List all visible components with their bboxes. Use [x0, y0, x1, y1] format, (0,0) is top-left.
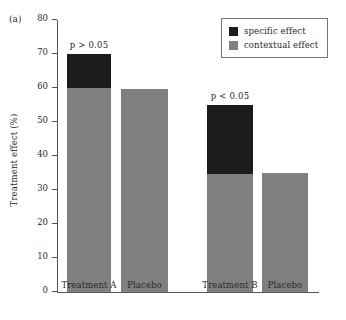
panel-label: (a) — [9, 14, 22, 24]
bar-segment-specific-0 — [67, 54, 111, 88]
y-tick-0: 0 — [52, 291, 57, 292]
y-tick-label-60: 60 — [37, 81, 48, 91]
legend-swatch-contextual-icon — [229, 41, 238, 50]
y-tick-10: 10 — [52, 257, 57, 258]
y-tick-40: 40 — [52, 155, 57, 156]
y-tick-label-50: 50 — [37, 115, 48, 125]
bar-segment-contextual-1 — [121, 89, 168, 292]
bar-1[interactable] — [121, 89, 168, 292]
x-axis-line — [57, 292, 319, 293]
legend-item-contextual[interactable]: contextual effect — [229, 38, 318, 52]
p-value-annotation-1: p < 0.05 — [185, 91, 275, 101]
legend-label-contextual: contextual effect — [244, 40, 318, 50]
y-tick-label-10: 10 — [37, 251, 48, 261]
bar-0[interactable] — [67, 54, 111, 292]
y-tick-30: 30 — [52, 189, 57, 190]
p-value-annotation-0: p > 0.05 — [44, 40, 134, 50]
bar-2[interactable] — [207, 105, 253, 292]
y-tick-label-20: 20 — [37, 217, 48, 227]
legend-item-specific[interactable]: specific effect — [229, 24, 318, 38]
y-axis-title: Treatment effect (%) — [9, 95, 19, 225]
bar-segment-contextual-0 — [67, 88, 111, 292]
bar-segment-contextual-2 — [207, 174, 253, 292]
y-tick-80: 80 — [52, 19, 57, 20]
x-axis-label-3: Placebo — [240, 280, 330, 290]
legend-swatch-specific-icon — [229, 27, 238, 36]
legend: specific effect contextual effect — [221, 18, 328, 58]
y-tick-50: 50 — [52, 121, 57, 122]
legend-label-specific: specific effect — [244, 26, 306, 36]
figure-panel-a: (a) Treatment effect (%) 010203040506070… — [0, 0, 346, 320]
bar-3[interactable] — [262, 173, 308, 292]
y-tick-label-80: 80 — [37, 13, 48, 23]
bar-segment-specific-2 — [207, 105, 253, 174]
bar-segment-contextual-3 — [262, 173, 308, 292]
y-tick-label-30: 30 — [37, 183, 48, 193]
plot-area: 01020304050607080 — [57, 20, 319, 292]
y-tick-20: 20 — [52, 223, 57, 224]
y-tick-label-40: 40 — [37, 149, 48, 159]
caption-remnant — [120, 0, 340, 5]
y-axis-line — [57, 20, 58, 292]
y-tick-70: 70 — [52, 53, 57, 54]
x-axis-label-1: Placebo — [100, 280, 190, 290]
y-tick-60: 60 — [52, 87, 57, 88]
